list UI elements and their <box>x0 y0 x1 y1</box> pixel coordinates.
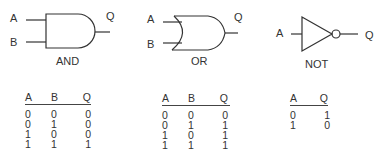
table-row: 000 <box>25 109 91 119</box>
and-output-label: Q <box>106 10 115 22</box>
table-header: Q <box>214 92 228 104</box>
or-gate-icon <box>163 16 238 50</box>
table-header: Q <box>77 91 91 103</box>
table-row: 000 <box>162 110 230 120</box>
table-header: B <box>188 92 214 104</box>
table-header: A <box>290 92 315 104</box>
not-gate-icon <box>291 17 358 51</box>
table-row: 010 <box>25 119 91 129</box>
not-gate-label: NOT <box>305 58 328 70</box>
and-gate-label: AND <box>56 55 79 67</box>
and-truth-table: A B Q 000 010 100 111 <box>25 91 91 149</box>
and-input-a-label: A <box>10 12 17 24</box>
table-header: A <box>162 92 188 104</box>
table-header: A <box>25 91 51 103</box>
or-gate-label: OR <box>191 55 208 67</box>
and-gate-icon <box>26 14 110 48</box>
or-input-b-label: B <box>147 38 154 50</box>
table-row: 100 <box>25 129 91 139</box>
table-row: 101 <box>162 130 230 140</box>
or-output-label: Q <box>234 11 243 23</box>
or-input-a-label: A <box>147 13 154 25</box>
table-header: B <box>51 91 77 103</box>
not-truth-table: A Q 01 10 <box>290 92 330 130</box>
not-input-a-label: A <box>276 27 283 39</box>
or-truth-table: A B Q 000 011 101 111 <box>162 92 230 150</box>
table-header: Q <box>315 92 328 104</box>
table-row: 111 <box>25 139 91 149</box>
and-input-b-label: B <box>10 36 17 48</box>
table-row: 111 <box>162 140 230 150</box>
not-output-label: Q <box>365 29 374 41</box>
table-row: 011 <box>162 120 230 130</box>
table-row: 10 <box>290 120 330 130</box>
